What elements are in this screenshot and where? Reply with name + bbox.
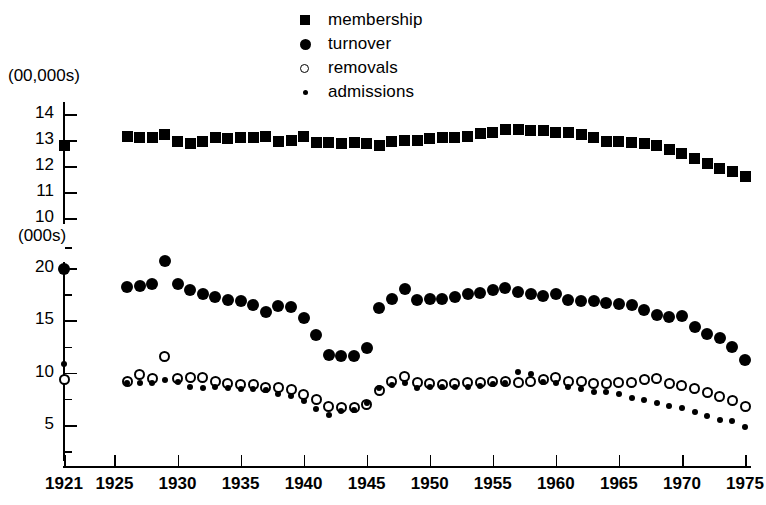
data-point-removals: [576, 376, 587, 387]
lower-minor-tick: [65, 294, 72, 296]
x-tick-1960: [556, 455, 558, 467]
lower-tick-label-5: 5: [20, 414, 54, 434]
upper-axis-spine: [63, 102, 65, 224]
data-point-turnover: [462, 288, 474, 300]
upper-tick-11: [65, 192, 77, 194]
lower-tick-label-20: 20: [20, 257, 54, 277]
data-point-membership: [248, 132, 259, 143]
x-tick-1940: [304, 455, 306, 467]
data-point-removals: [689, 383, 700, 394]
data-point-membership: [702, 158, 713, 169]
chart-legend: membershipturnoverremovalsadmissions: [300, 8, 423, 104]
data-point-turnover: [134, 280, 146, 292]
data-point-removals: [525, 376, 536, 387]
data-point-membership: [260, 131, 271, 142]
data-point-turnover: [58, 263, 70, 275]
data-point-membership: [676, 148, 687, 159]
data-point-admissions: [490, 381, 496, 387]
data-point-admissions: [477, 383, 483, 389]
data-point-turnover: [235, 295, 247, 307]
data-point-admissions: [162, 377, 168, 383]
data-point-membership: [323, 137, 334, 148]
upper-tick-label-14: 14: [20, 103, 54, 123]
x-tick-1925: [114, 455, 116, 467]
data-point-membership: [273, 136, 284, 147]
x-tick-1965: [619, 455, 621, 467]
data-point-admissions: [692, 409, 698, 415]
data-point-membership: [500, 124, 511, 135]
data-point-removals: [639, 374, 650, 385]
data-point-membership: [689, 153, 700, 164]
data-point-admissions: [515, 369, 521, 375]
data-point-turnover: [676, 310, 688, 322]
data-point-membership: [714, 163, 725, 174]
data-point-membership: [740, 171, 751, 182]
data-point-admissions: [528, 371, 534, 377]
lower-tick-15: [65, 320, 77, 322]
data-point-admissions: [427, 384, 433, 390]
data-point-removals: [134, 369, 145, 380]
data-point-membership: [601, 136, 612, 147]
data-point-turnover: [272, 300, 284, 312]
data-point-membership: [576, 129, 587, 140]
data-point-turnover: [499, 282, 511, 294]
filled-square-icon: [300, 15, 328, 25]
data-point-admissions: [729, 418, 735, 424]
upper-tick-label-12: 12: [20, 155, 54, 175]
x-tick-label-1925: 1925: [88, 474, 140, 494]
data-point-admissions: [61, 361, 67, 367]
legend-item-removals: removals: [300, 56, 423, 80]
data-point-turnover: [298, 312, 310, 324]
data-point-admissions: [452, 384, 458, 390]
data-point-admissions: [666, 403, 672, 409]
data-point-admissions: [629, 395, 635, 401]
legend-item-turnover: turnover: [300, 32, 423, 56]
data-point-turnover: [613, 298, 625, 310]
data-point-turnover: [424, 293, 436, 305]
data-point-turnover: [247, 299, 259, 311]
data-point-turnover: [386, 293, 398, 305]
x-tick-label-1960: 1960: [530, 474, 582, 494]
upper-tick-label-11: 11: [20, 181, 54, 201]
data-point-admissions: [263, 387, 269, 393]
data-point-membership: [298, 131, 309, 142]
lower-minor-tick: [65, 451, 72, 453]
data-point-membership: [197, 136, 208, 147]
data-point-admissions: [641, 397, 647, 403]
data-point-removals: [676, 380, 687, 391]
data-point-membership: [336, 138, 347, 149]
small-dot-icon: [300, 90, 328, 95]
legend-item-membership: membership: [300, 8, 423, 32]
upper-tick-label-10: 10: [20, 207, 54, 227]
data-point-membership: [449, 132, 460, 143]
data-point-membership: [235, 132, 246, 143]
x-tick-label-1935: 1935: [215, 474, 267, 494]
data-point-turnover: [689, 321, 701, 333]
data-point-membership: [386, 136, 397, 147]
data-point-membership: [134, 132, 145, 143]
data-point-turnover: [323, 349, 335, 361]
x-tick-label-1965: 1965: [593, 474, 645, 494]
data-point-turnover: [663, 311, 675, 323]
data-point-membership: [651, 140, 662, 151]
legend-item-admissions: admissions: [300, 80, 423, 104]
data-point-removals: [588, 378, 599, 389]
data-point-membership: [727, 166, 738, 177]
data-point-membership: [613, 136, 624, 147]
data-point-admissions: [238, 386, 244, 392]
chart-container: membershipturnoverremovalsadmissions (00…: [0, 0, 766, 505]
legend-label: admissions: [328, 82, 414, 102]
data-point-removals: [513, 377, 524, 388]
data-point-admissions: [565, 384, 571, 390]
data-point-turnover: [474, 287, 486, 299]
x-tick-label-1930: 1930: [152, 474, 204, 494]
lower-minor-tick: [65, 399, 72, 401]
data-point-turnover: [588, 295, 600, 307]
data-point-membership: [172, 136, 183, 147]
data-point-turnover: [146, 278, 158, 290]
data-point-removals: [197, 372, 208, 383]
data-point-turnover: [550, 288, 562, 300]
open-circle-icon: [300, 64, 328, 73]
data-point-admissions: [187, 384, 193, 390]
upper-tick-12: [65, 166, 77, 168]
